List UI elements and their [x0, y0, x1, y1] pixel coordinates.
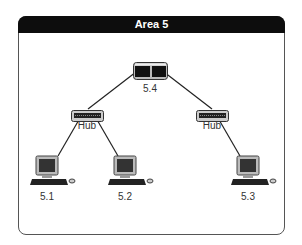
link-router-hubleft [88, 72, 136, 109]
hub-left-label: Hub [67, 120, 107, 131]
switch-label: 5.4 [130, 83, 170, 94]
switch-node[interactable] [133, 62, 168, 84]
connection-lines [0, 0, 302, 245]
computer-label-5-3: 5.3 [228, 191, 268, 202]
computer-label-5-1: 5.1 [27, 191, 67, 202]
link-router-hubright [164, 72, 212, 109]
computer-icon [30, 155, 76, 189]
computer-node-5-2[interactable] [108, 155, 154, 193]
computer-icon [108, 155, 154, 189]
computer-node-5-1[interactable] [30, 155, 76, 193]
computer-node-5-3[interactable] [231, 155, 277, 193]
hub-right-label: Hub [192, 120, 232, 131]
computer-icon [231, 155, 277, 189]
computer-label-5-2: 5.2 [105, 191, 145, 202]
switch-icon [133, 62, 168, 80]
